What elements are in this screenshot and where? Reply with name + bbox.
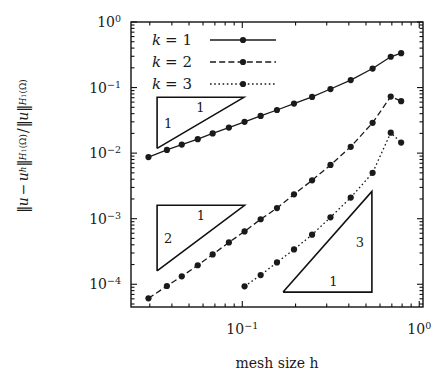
legend-label-2: k= 2	[152, 53, 192, 71]
x-axis-label: mesh size h	[131, 355, 423, 371]
y-axis-label-u2: u	[15, 112, 31, 121]
x-tick-label-0-text: 10−1	[226, 320, 258, 338]
y-axis-label-slash: /	[15, 128, 31, 133]
legend-label-1: k= 1	[152, 31, 192, 49]
slope-triangle-3: 31	[283, 191, 372, 292]
data-point	[370, 120, 376, 126]
y-tick-label-4-text: 10−4	[89, 275, 121, 293]
slope-triangle-3-horizontal-label: 1	[329, 274, 337, 289]
data-point	[179, 273, 185, 279]
legend-marker-2	[240, 59, 246, 65]
data-point	[258, 272, 264, 278]
data-point	[348, 194, 354, 200]
data-point	[398, 50, 404, 56]
data-point	[291, 191, 297, 197]
data-point	[388, 54, 394, 60]
data-point	[327, 162, 333, 168]
y-axis-label-H-a: H	[18, 152, 28, 160]
x-axis-label-text: mesh size h	[235, 355, 318, 371]
legend-marker-3	[240, 81, 246, 87]
data-point	[370, 170, 376, 176]
data-point	[258, 216, 264, 222]
data-point	[241, 283, 247, 289]
data-point	[388, 130, 394, 136]
y-tick-label-1-text: 10−1	[89, 78, 121, 96]
slope-triangle-1-horizontal-label: 1	[196, 100, 204, 115]
y-axis-label-u: u	[15, 197, 31, 206]
convergence-plot-figure: ‖u−uh‖H1(Ω)/‖u‖H1(Ω) mesh size h 112131 …	[0, 0, 448, 392]
series-line-3	[245, 133, 402, 287]
data-point	[370, 65, 376, 71]
x-tick-label-1-text: 100	[407, 320, 431, 338]
data-point	[226, 125, 232, 131]
slope-triangle-3-vertical-label: 3	[356, 235, 364, 250]
legend-entry-3: k= 3	[152, 75, 276, 93]
data-point	[274, 205, 280, 211]
data-point	[309, 232, 315, 238]
legend-entry-2: k= 2	[152, 53, 276, 71]
data-point	[309, 94, 315, 100]
x-tick-label-1: 100	[407, 320, 431, 338]
data-point	[388, 93, 394, 99]
data-point	[145, 295, 151, 301]
data-point	[210, 130, 216, 136]
y-axis-label-h-sub: h	[18, 167, 28, 173]
data-point	[274, 259, 280, 265]
y-axis-label: ‖u−uh‖H1(Ω)/‖u‖H1(Ω)	[8, 0, 38, 296]
y-axis-label-norm3: ‖	[15, 121, 31, 127]
data-point	[327, 86, 333, 92]
series-3	[241, 130, 404, 290]
y-tick-label-3: 10−3	[89, 209, 121, 227]
data-point	[241, 228, 247, 234]
data-point	[226, 239, 232, 245]
y-axis-label-minus: −	[15, 183, 31, 195]
data-point	[195, 136, 201, 142]
legend-entry-1: k= 1	[152, 31, 276, 49]
legend-label-3: k= 3	[152, 75, 192, 93]
data-point	[179, 141, 185, 147]
data-point	[164, 147, 170, 153]
slope-triangles-layer: 112131	[157, 97, 372, 292]
y-tick-label-3-text: 10−3	[89, 209, 121, 227]
x-tick-label-0: 10−1	[226, 320, 258, 338]
legend: k= 1k= 2k= 3	[152, 31, 276, 93]
slope-triangle-1-vertical-label: 1	[164, 116, 172, 131]
y-axis-label-norm1: ‖	[15, 206, 31, 212]
y-axis-label-norm4: ‖	[15, 105, 31, 111]
slope-triangle-2-vertical-label: 2	[164, 231, 172, 246]
data-point	[309, 177, 315, 183]
y-tick-label-1: 10−1	[89, 78, 121, 96]
y-axis-label-omega-b: (Ω)	[18, 79, 28, 93]
data-point	[348, 77, 354, 83]
y-tick-label-0: 100	[97, 13, 121, 31]
data-point	[258, 113, 264, 119]
data-point	[145, 154, 151, 160]
data-point	[164, 283, 170, 289]
data-point	[241, 119, 247, 125]
data-point	[398, 139, 404, 145]
axis-tick-labels: 10010−110−210−310−410−1100	[89, 13, 431, 338]
slope-triangle-2-horizontal-label: 1	[197, 208, 205, 223]
y-axis-label-uh: u	[15, 172, 31, 181]
plot-canvas: 112131 k= 1k= 2k= 3 10010−110−210−310−41…	[0, 0, 448, 392]
y-axis-label-exp-b: 1	[20, 94, 27, 98]
y-tick-label-0-text: 100	[97, 13, 121, 31]
y-tick-label-2-text: 10−2	[89, 144, 121, 162]
series-line-2	[148, 97, 401, 299]
slope-triangle-1: 11	[157, 97, 244, 148]
y-axis-label-omega-a: (Ω)	[18, 134, 28, 148]
y-axis-label-norm2: ‖	[15, 160, 31, 166]
y-axis-label-exp-a: 1	[20, 148, 27, 152]
legend-marker-1	[240, 37, 246, 43]
data-point	[291, 246, 297, 252]
y-tick-label-2: 10−2	[89, 144, 121, 162]
y-axis-label-H-b: H	[18, 98, 28, 106]
data-point	[398, 98, 404, 104]
y-tick-label-4: 10−4	[89, 275, 121, 293]
slope-triangle-2: 21	[157, 205, 244, 271]
data-point	[348, 144, 354, 150]
data-point	[274, 107, 280, 113]
data-point	[291, 100, 297, 106]
series-2	[145, 93, 404, 301]
data-point	[210, 251, 216, 257]
